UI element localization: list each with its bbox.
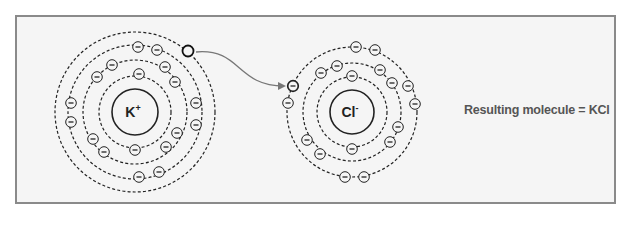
resulting-molecule-caption: Resulting molecule = KCl	[464, 103, 610, 117]
electron	[66, 98, 77, 109]
electron	[130, 145, 141, 156]
chlorine-atom: Cl-	[283, 42, 421, 183]
electron	[88, 134, 99, 145]
electron	[347, 71, 358, 82]
electron	[161, 142, 172, 153]
electron	[172, 128, 183, 139]
received-electron	[288, 81, 299, 92]
electron	[302, 135, 313, 146]
electron	[332, 61, 343, 72]
electron	[134, 172, 145, 183]
electron	[375, 65, 386, 76]
electron	[403, 81, 414, 92]
electron	[387, 78, 398, 89]
electron	[316, 68, 327, 79]
electron	[66, 117, 77, 128]
donated-electron-origin	[183, 46, 194, 57]
electron	[191, 98, 202, 109]
electron	[410, 99, 421, 110]
atoms-layer: K+Cl-	[55, 32, 420, 192]
electron	[347, 144, 358, 155]
electron	[370, 45, 381, 56]
electron	[99, 147, 110, 158]
electron	[315, 149, 326, 160]
electron	[160, 62, 171, 73]
electron	[152, 45, 163, 56]
electron	[134, 69, 145, 80]
electron	[133, 42, 144, 53]
electron	[351, 42, 362, 53]
electron	[385, 137, 396, 148]
electron	[191, 120, 202, 131]
electron	[154, 167, 165, 178]
electron	[359, 172, 370, 183]
electron	[283, 98, 294, 109]
electron	[92, 72, 103, 83]
potassium-atom: K+	[55, 32, 215, 192]
electron	[340, 172, 351, 183]
electron	[170, 77, 181, 88]
electron	[393, 122, 404, 133]
electron	[107, 60, 118, 71]
